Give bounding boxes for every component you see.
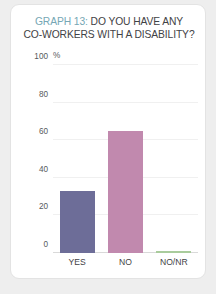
chart-title-rest: DO YOU HAVE ANY — [88, 16, 183, 27]
chart-card: GRAPH 13: DO YOU HAVE ANY CO-WORKERS WIT… — [10, 4, 206, 279]
y-axis-tick-label: 40 — [39, 164, 48, 173]
bar-no-nr — [156, 251, 191, 253]
x-axis-tick-label: NO — [119, 257, 132, 267]
x-axis-tick-label: NO/NR — [160, 257, 188, 267]
chart-title-line2: CO-WORKERS WITH A DISABILITY? — [23, 29, 194, 40]
x-axis-tick-label: YES — [69, 257, 86, 267]
chart-title-tag: GRAPH 13: — [35, 16, 88, 27]
y-axis-tick-label: 100 — [34, 52, 48, 61]
y-axis-tick-label: 60 — [39, 127, 48, 136]
gridline — [53, 102, 198, 103]
chart-title: GRAPH 13: DO YOU HAVE ANY CO-WORKERS WIT… — [17, 15, 201, 41]
bar-no — [108, 131, 143, 253]
gridline — [53, 64, 198, 65]
y-axis-unit-label: % — [53, 51, 60, 60]
bar-yes — [60, 191, 95, 253]
plot-area: 020406080100YESNONO/NR — [53, 65, 198, 253]
y-axis-tick-label: 80 — [39, 89, 48, 98]
y-axis-tick-label: 0 — [43, 240, 48, 249]
y-axis-tick-label: 20 — [39, 202, 48, 211]
